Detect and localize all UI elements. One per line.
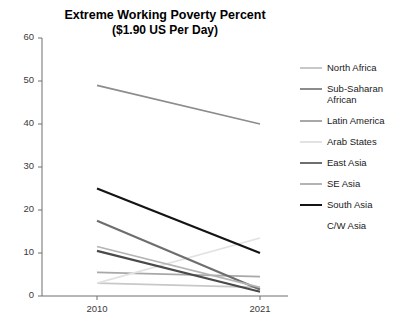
plot-svg	[42, 38, 288, 296]
axes	[38, 38, 288, 300]
legend-label-se-asia: SE Asia	[327, 178, 360, 189]
series-lines	[97, 85, 260, 291]
legend-item-sub-saharan-african[interactable]: Sub-Saharan African	[300, 83, 408, 105]
legend-swatch-se-asia	[300, 183, 322, 185]
y-tick-40: 40	[4, 117, 34, 128]
legend-swatch-south-asia	[300, 204, 322, 206]
legend-item-arab-states[interactable]: Arab States	[300, 136, 408, 147]
legend-item-east-asia[interactable]: East Asia	[300, 157, 408, 168]
series-line-sub-saharan-african	[97, 85, 260, 124]
legend-swatch-sub-saharan-african	[300, 88, 322, 90]
legend-label-latin-america: Latin America	[327, 115, 385, 126]
legend-label-south-asia: South Asia	[327, 199, 372, 210]
series-line-east-asia	[97, 221, 260, 290]
legend-item-south-asia[interactable]: South Asia	[300, 199, 408, 210]
chart-title-line1: Extreme Working Poverty Percent	[64, 8, 265, 22]
legend-label-north-africa: North Africa	[327, 62, 377, 73]
y-tick-10: 10	[4, 246, 34, 257]
legend-label-east-asia: East Asia	[327, 157, 367, 168]
chart-title: Extreme Working Poverty Percent ($1.90 U…	[30, 8, 300, 38]
legend-swatch-north-africa	[300, 67, 322, 69]
series-line-se-asia	[97, 247, 260, 288]
x-tick-2010: 2010	[77, 303, 117, 314]
legend-swatch-latin-america	[300, 120, 322, 122]
y-tick-60: 60	[4, 31, 34, 42]
legend-item-cw-asia[interactable]: C/W Asia	[300, 220, 408, 231]
legend-item-se-asia[interactable]: SE Asia	[300, 178, 408, 189]
y-tick-30: 30	[4, 160, 34, 171]
legend-label-arab-states: Arab States	[327, 136, 377, 147]
series-line-south-asia	[97, 189, 260, 254]
legend-swatch-cw-asia	[300, 225, 322, 227]
chart-container: Extreme Working Poverty Percent ($1.90 U…	[0, 0, 410, 330]
y-tick-20: 20	[4, 203, 34, 214]
legend-swatch-arab-states	[300, 141, 322, 143]
y-tick-0: 0	[4, 289, 34, 300]
chart-legend: North Africa Sub-Saharan African Latin A…	[300, 62, 408, 241]
x-tick-2021: 2021	[240, 303, 280, 314]
legend-label-cw-asia: C/W Asia	[327, 220, 366, 231]
plot-area: 0 10 20 30 40 50 60 2010 2021	[42, 38, 288, 296]
chart-subtitle: ($1.90 US Per Day)	[30, 23, 300, 38]
legend-item-north-africa[interactable]: North Africa	[300, 62, 408, 73]
legend-label-sub-saharan-african: Sub-Saharan African	[327, 83, 408, 105]
legend-item-latin-america[interactable]: Latin America	[300, 115, 408, 126]
y-tick-50: 50	[4, 74, 34, 85]
legend-swatch-east-asia	[300, 162, 322, 164]
